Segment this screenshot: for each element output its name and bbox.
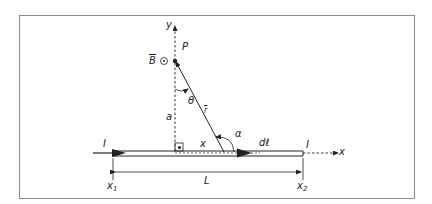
theta-arc	[175, 89, 188, 91]
x-axis-label: x	[339, 147, 345, 157]
x1-label: x1	[107, 181, 117, 193]
right-angle-dot	[178, 146, 181, 149]
y-axis-label: y	[166, 20, 172, 30]
point-p-dot	[173, 59, 177, 63]
position-x-label: x	[200, 139, 206, 149]
x2-label: x2	[297, 181, 307, 193]
theta-label: θ	[188, 96, 194, 106]
length-label: L	[204, 176, 210, 186]
diagram-graphics	[0, 0, 432, 204]
b-field-label: B	[149, 56, 156, 66]
point-p-label: P	[182, 42, 188, 52]
current-left-label: I	[103, 139, 106, 149]
alpha-arc	[216, 137, 234, 152]
r-vector-label: r	[204, 107, 207, 115]
distance-a-label: a	[166, 112, 172, 122]
alpha-label: α	[235, 129, 242, 139]
dl-label: dℓ	[259, 138, 269, 148]
diagram-canvas: y P B θ r a α x dℓ I I x L x1 x2	[0, 0, 432, 204]
current-right-label: I	[306, 140, 309, 150]
frame-border	[20, 16, 415, 199]
